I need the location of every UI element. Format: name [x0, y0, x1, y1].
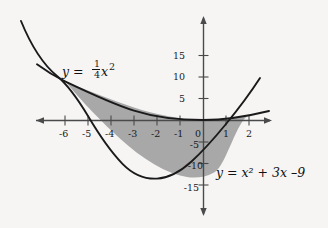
- label-upper-curve-fraction-denominator: 4: [94, 69, 100, 80]
- x-tick-label: 2: [246, 128, 252, 139]
- x-tick-label: -2: [151, 128, 160, 139]
- x-tick-label: -1: [174, 128, 183, 139]
- figure-background: [0, 0, 328, 228]
- x-tick-label: -3: [128, 128, 137, 139]
- y-tick-label: -10: [188, 160, 203, 171]
- label-upper-curve-lhs: y =: [61, 64, 84, 79]
- label-lower-curve: y = x² + 3x –9: [215, 165, 305, 180]
- y-tick-label: 5: [179, 93, 185, 104]
- label-upper-curve-variable: x: [101, 64, 108, 79]
- x-tick-label: -5: [82, 128, 91, 139]
- label-upper-curve-exponent: 2: [109, 61, 115, 72]
- x-tick-labels: -6 -5 -4 -3 -2 -1 0 1 2: [59, 128, 252, 139]
- y-tick-label: -5: [190, 139, 199, 150]
- x-tick-label: -6: [59, 128, 68, 139]
- y-tick-label: -15: [184, 182, 199, 193]
- graph-figure: y = 1 4 x 2 y = x² + 3x –9 -6 -5 -4 -3 -…: [0, 0, 328, 228]
- x-tick-label: -4: [105, 128, 114, 139]
- x-tick-label: 1: [223, 128, 229, 139]
- y-tick-label: 15: [173, 50, 185, 61]
- x-tick-label-origin: 0: [195, 128, 201, 139]
- label-upper-curve-fraction-numerator: 1: [94, 58, 100, 69]
- y-tick-label: 10: [173, 71, 185, 82]
